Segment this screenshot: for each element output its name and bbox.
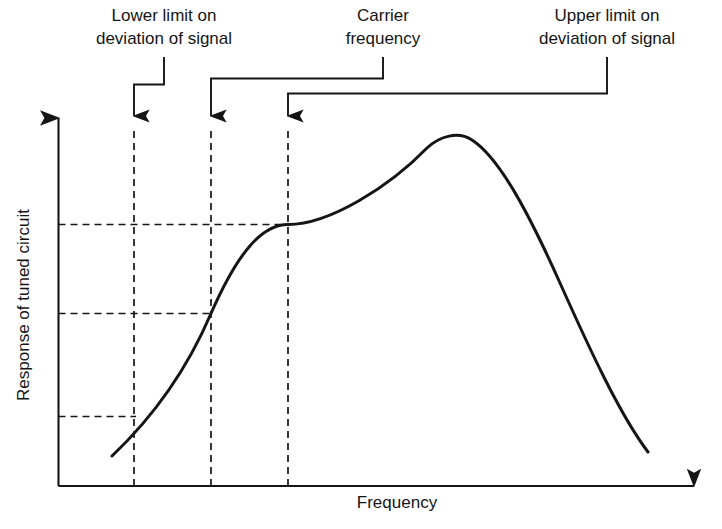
annotation-upper-limit: Upper limit on deviation of signal xyxy=(539,6,675,48)
annotation-upper-limit-line1: Upper limit on xyxy=(555,6,660,25)
annotation-upper-limit-line2: deviation of signal xyxy=(539,29,675,48)
guide-lines-group xyxy=(59,131,291,486)
x-axis-label: Frequency xyxy=(357,493,438,512)
axes-group xyxy=(59,118,695,486)
response-curve-chart: Lower limit on deviation of signal Carri… xyxy=(0,0,722,529)
leader-line-carrier-frequency xyxy=(211,57,383,116)
annotation-carrier-frequency-line1: Carrier xyxy=(357,6,409,25)
annotation-carrier-frequency: Carrier frequency xyxy=(346,6,421,48)
annotation-lower-limit-line2: deviation of signal xyxy=(96,29,232,48)
figure-container: Lower limit on deviation of signal Carri… xyxy=(0,0,722,529)
annotation-lower-limit: Lower limit on deviation of signal xyxy=(96,6,232,48)
callout-leaders-group xyxy=(134,57,607,116)
leader-line-upper-limit xyxy=(288,57,607,116)
annotation-lower-limit-line1: Lower limit on xyxy=(112,6,217,25)
y-axis-label: Response of tuned circuit xyxy=(14,209,33,401)
leader-line-lower-limit xyxy=(134,57,164,116)
response-curve-group xyxy=(112,135,648,456)
annotation-carrier-frequency-line2: frequency xyxy=(346,29,421,48)
response-curve xyxy=(112,135,648,456)
